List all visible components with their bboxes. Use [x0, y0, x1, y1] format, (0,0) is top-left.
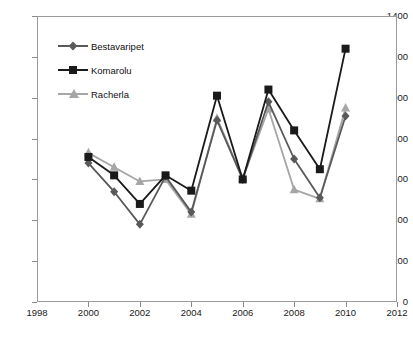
legend-item[interactable]: Komarolu — [58, 58, 144, 82]
x-axis-tick-mark — [346, 302, 347, 307]
x-axis-tick-label: 2010 — [326, 308, 366, 318]
x-axis-tick-label: 2000 — [68, 308, 108, 318]
x-axis-tick-mark — [294, 302, 295, 307]
x-axis-tick-label: 2002 — [120, 308, 160, 318]
legend-label: Komarolu — [91, 65, 132, 76]
x-axis-tick-mark — [88, 302, 89, 307]
data-point-marker — [290, 185, 299, 194]
x-axis-tick-label: 2004 — [171, 308, 211, 318]
y-axis-tick-mark — [32, 302, 37, 303]
data-point-marker — [239, 175, 247, 183]
x-axis-tick-label: 1998 — [17, 308, 57, 318]
data-point-marker — [84, 153, 92, 161]
data-point-marker — [136, 200, 144, 208]
legend-marker-icon — [58, 88, 88, 100]
legend-marker-icon — [58, 64, 88, 76]
data-point-marker — [290, 126, 298, 134]
x-axis-tick-mark — [140, 302, 141, 307]
data-point-marker — [187, 187, 195, 195]
legend-label: Bestavaripet — [91, 41, 144, 52]
legend-item[interactable]: Racherla — [58, 82, 144, 106]
data-point-marker — [213, 92, 221, 100]
legend: BestavaripetKomaroluRacherla — [58, 34, 144, 106]
x-axis-tick-label: 2008 — [274, 308, 314, 318]
data-point-marker — [110, 171, 118, 179]
data-point-marker — [316, 165, 324, 173]
data-point-marker — [341, 103, 350, 112]
x-axis-tick-label: 2012 — [377, 308, 413, 318]
legend-marker-icon — [58, 40, 88, 52]
x-axis-tick-mark — [191, 302, 192, 307]
x-axis-tick-label: 2006 — [223, 308, 263, 318]
data-point-marker — [264, 86, 272, 94]
legend-label: Racherla — [91, 89, 129, 100]
x-axis-tick-mark — [397, 302, 398, 307]
data-point-marker — [342, 45, 350, 53]
x-axis-tick-mark — [243, 302, 244, 307]
legend-item[interactable]: Bestavaripet — [58, 34, 144, 58]
data-point-marker — [162, 171, 170, 179]
